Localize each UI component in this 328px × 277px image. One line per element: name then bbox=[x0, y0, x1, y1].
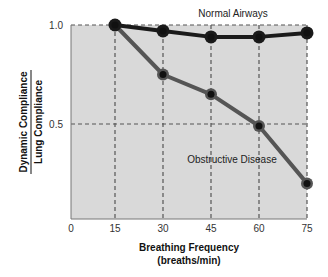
y-axis-title-denominator: Lung Compliance bbox=[33, 80, 44, 164]
plot-area bbox=[71, 25, 307, 219]
data-point-marker bbox=[160, 71, 167, 78]
y-axis-title-numerator: Dynamic Compliance bbox=[18, 71, 29, 173]
x-tick-label: 60 bbox=[253, 223, 265, 234]
series-label-normal-airways: Normal Airways bbox=[198, 8, 267, 19]
x-tick-label: 75 bbox=[301, 223, 313, 234]
data-point-marker bbox=[304, 180, 311, 187]
y-tick-label: 0.5 bbox=[49, 119, 63, 130]
data-point-marker bbox=[112, 22, 119, 29]
data-point-marker bbox=[304, 29, 311, 36]
x-tick-label: 15 bbox=[109, 223, 121, 234]
data-point-marker bbox=[256, 33, 263, 40]
data-point-marker bbox=[208, 91, 215, 98]
line-chart: 01530456075 0.51.0 Normal Airways Obstru… bbox=[0, 0, 328, 277]
series-label-obstructive-disease: Obstructive Disease bbox=[187, 154, 277, 165]
x-axis-title-line2: (breaths/min) bbox=[157, 255, 220, 266]
x-axis-ticks: 01530456075 bbox=[68, 223, 313, 234]
y-axis-ticks: 0.51.0 bbox=[49, 20, 63, 130]
data-point-marker bbox=[208, 33, 215, 40]
data-point-marker bbox=[256, 122, 263, 129]
data-point-marker bbox=[160, 27, 167, 34]
y-axis-title: Dynamic Compliance Lung Compliance bbox=[18, 70, 44, 174]
x-tick-label: 0 bbox=[68, 223, 74, 234]
y-tick-label: 1.0 bbox=[49, 20, 63, 31]
x-tick-label: 45 bbox=[205, 223, 217, 234]
x-axis-title-line1: Breathing Frequency bbox=[139, 242, 239, 253]
x-tick-label: 30 bbox=[157, 223, 169, 234]
